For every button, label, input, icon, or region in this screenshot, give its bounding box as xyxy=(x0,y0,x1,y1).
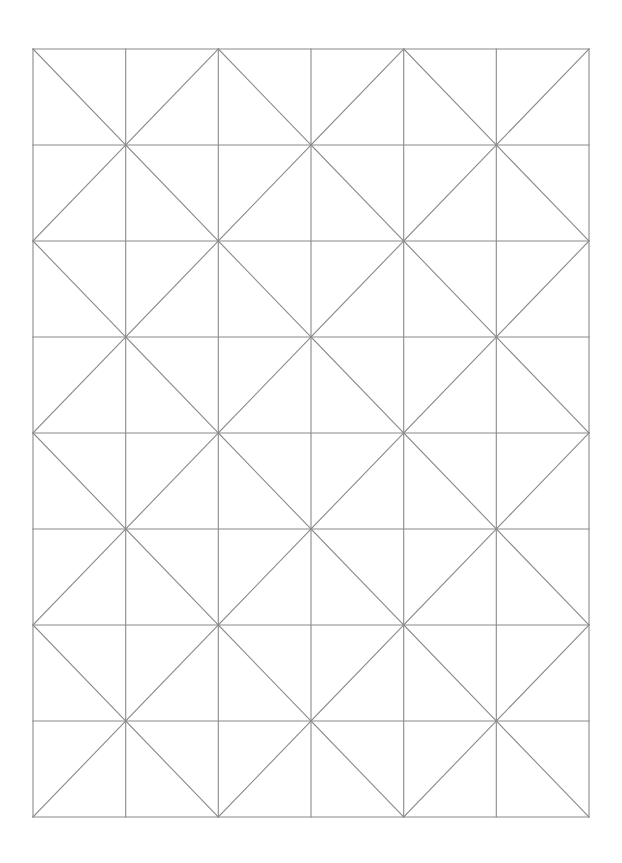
diagonal-slash xyxy=(496,241,589,337)
diagonal-backslash xyxy=(311,529,404,625)
diagonal-backslash xyxy=(33,49,126,145)
diagonal-backslash xyxy=(218,241,311,337)
diagonal-slash xyxy=(311,241,404,337)
diagonal-slash xyxy=(126,625,219,721)
diagonal-backslash xyxy=(218,625,311,721)
diagonal-backslash xyxy=(311,337,404,433)
diagonal-backslash xyxy=(311,145,404,241)
diagonal-slash xyxy=(404,721,497,817)
diagonal-slash xyxy=(311,49,404,145)
diagonal-backslash xyxy=(126,337,219,433)
diagonal-backslash xyxy=(218,433,311,529)
diagonal-slash xyxy=(33,337,126,433)
diagonal-slash xyxy=(404,529,497,625)
diagonal-backslash xyxy=(33,241,126,337)
diagonal-slash xyxy=(218,529,311,625)
diagonal-slash xyxy=(218,337,311,433)
diagonal-slash xyxy=(311,433,404,529)
diagonal-backslash xyxy=(126,145,219,241)
diagonal-backslash xyxy=(404,49,497,145)
diagonal-backslash xyxy=(404,241,497,337)
diagonal-slash xyxy=(126,433,219,529)
diagonal-slash xyxy=(496,625,589,721)
diagonal-slash xyxy=(33,145,126,241)
diagonal-slash xyxy=(126,241,219,337)
diagonal-slash xyxy=(496,49,589,145)
diagonal-slash xyxy=(218,145,311,241)
grid-paper-page xyxy=(0,0,622,863)
diagonal-backslash xyxy=(496,529,589,625)
diagonal-slash xyxy=(404,337,497,433)
diagonal-backslash xyxy=(33,433,126,529)
diagonal-slash xyxy=(33,721,126,817)
diagonal-backslash xyxy=(126,721,219,817)
diagonal-slash xyxy=(33,529,126,625)
diagonal-slash xyxy=(311,625,404,721)
diagonal-backslash xyxy=(496,337,589,433)
diagonal-backslash xyxy=(33,625,126,721)
diagonal-backslash xyxy=(218,49,311,145)
diagonal-backslash xyxy=(404,625,497,721)
diagonal-backslash xyxy=(496,145,589,241)
diagonal-slash xyxy=(404,145,497,241)
diagonal-slash xyxy=(496,433,589,529)
diagonal-backslash xyxy=(496,721,589,817)
diagonal-backslash xyxy=(404,433,497,529)
diagonal-backslash xyxy=(126,529,219,625)
diagonal-slash xyxy=(126,49,219,145)
diagonal-slash xyxy=(218,721,311,817)
diamond-triangle-grid xyxy=(0,0,622,863)
diagonal-backslash xyxy=(311,721,404,817)
